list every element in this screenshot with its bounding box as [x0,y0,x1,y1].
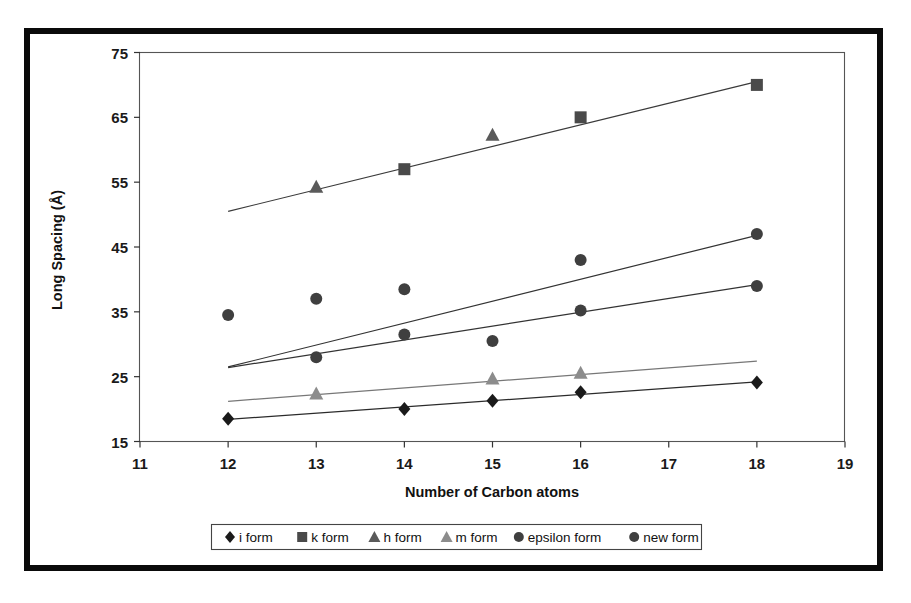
data-point [575,305,587,317]
data-point [398,283,410,295]
legend-marker-square-icon [297,532,307,542]
data-point [486,128,500,141]
data-point [398,163,410,175]
legend-label: i form [239,530,273,545]
data-point [398,402,410,416]
legend-marker-circle-icon [514,532,524,542]
legend-label: m form [456,530,498,545]
data-point [487,394,499,408]
y-tick-label: 35 [111,304,128,321]
series-new-form [310,280,763,363]
y-axis-ticks: 15253545556575 [111,45,140,451]
y-tick-label: 65 [111,109,128,126]
data-point [309,180,323,193]
x-tick-label: 11 [132,455,148,472]
x-tick-label: 13 [308,455,325,472]
legend-label: h form [383,530,421,545]
legend-label: epsilon form [528,530,602,545]
y-tick-label: 45 [111,239,128,256]
x-tick-label: 16 [572,455,589,472]
x-tick-label: 15 [484,455,501,472]
data-point [575,254,587,266]
x-tick-label: 12 [220,455,237,472]
chart-legend: i formk formh formm formepsilon formnew … [212,525,702,550]
data-point [751,280,763,292]
data-point [310,351,322,363]
legend-marker-circle-icon [629,532,639,542]
x-axis-title: Number of Carbon atoms [405,484,579,500]
y-tick-label: 75 [111,45,128,62]
y-tick-label: 55 [111,174,128,191]
series-epsilon-form [222,228,763,321]
data-point [309,387,323,400]
page-root: Long Spacing (Å) 15253545556575 11121314… [0,0,911,603]
data-point [574,366,588,379]
x-tick-label: 19 [837,455,854,472]
data-point [222,309,234,321]
long-spacing-scatter-chart: Long Spacing (Å) 15253545556575 11121314… [0,0,911,603]
data-point [751,79,763,91]
data-point [751,376,763,390]
y-tick-label: 15 [111,434,128,451]
trend-line [228,235,757,367]
data-point [575,385,587,399]
x-tick-label: 14 [396,455,413,472]
chart-figure: Long Spacing (Å) 15253545556575 11121314… [0,0,911,603]
x-tick-label: 18 [749,455,766,472]
trend-line [228,82,757,212]
data-point [751,228,763,240]
data-point [486,372,500,385]
data-point [487,335,499,347]
data-point [398,329,410,341]
legend-label: new form [643,530,699,545]
data-point [310,293,322,305]
data-point-markers [222,79,763,426]
x-axis-ticks: 111213141516171819 [132,442,853,472]
y-axis-title: Long Spacing (Å) [49,190,65,310]
data-point [222,412,234,426]
y-tick-label: 25 [111,369,128,386]
legend-label: k form [311,530,349,545]
trend-line [228,285,757,368]
x-tick-label: 17 [660,455,677,472]
series-m-form [309,366,587,400]
x-axis-title-text: Number of Carbon atoms [405,484,579,500]
y-axis-title-text: Long Spacing (Å) [49,190,65,310]
series-h-form [309,128,499,193]
data-point [575,111,587,123]
